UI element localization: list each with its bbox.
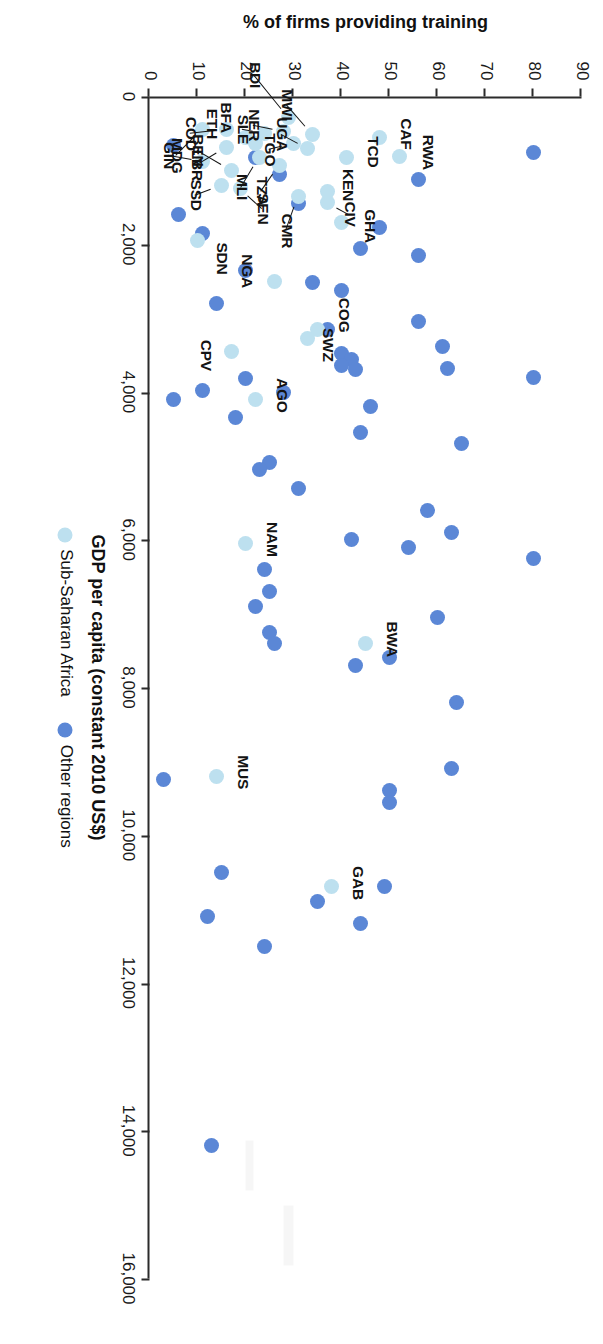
data-point [290, 189, 305, 204]
data-point [170, 207, 185, 222]
data-point [324, 879, 339, 894]
x-tick-label: 12,000 [117, 957, 137, 1009]
x-tick-mark [141, 244, 149, 246]
y-tick-label: 40 [331, 61, 351, 80]
data-point [348, 657, 363, 672]
y-tick-mark [531, 88, 533, 96]
data-point [252, 462, 267, 477]
data-point [204, 1138, 219, 1153]
data-point [194, 383, 209, 398]
data-point [430, 609, 445, 624]
data-point [238, 371, 253, 386]
country-label-ssd: SSD [186, 179, 204, 210]
x-tick-mark [141, 539, 149, 541]
data-point [199, 909, 214, 924]
data-point [218, 139, 233, 154]
country-label-sdn: SDN [212, 242, 230, 274]
data-point [401, 539, 416, 554]
data-point [353, 425, 368, 440]
y-tick-mark [483, 88, 485, 96]
country-label-ago: AGO [272, 378, 290, 413]
x-tick-label: 16,000 [117, 1252, 137, 1304]
scatter-chart-figure: 02,0004,0006,0008,00010,00012,00014,0001… [0, 0, 603, 1344]
data-point [382, 794, 397, 809]
data-point [319, 183, 334, 198]
y-tick-label: 70 [475, 61, 495, 80]
data-point [300, 331, 315, 346]
data-point [238, 535, 253, 550]
country-label-mdg: MDG [167, 137, 185, 173]
data-point [377, 879, 392, 894]
data-point [257, 938, 272, 953]
x-tick-mark [141, 1130, 149, 1132]
y-tick-mark [435, 88, 437, 96]
data-point [353, 916, 368, 931]
x-axis-title: GDP per capita (constant 2010 US$) [86, 96, 107, 1278]
legend-item: Sub-Saharan Africa [55, 527, 75, 696]
country-label-mwi: MWI [277, 89, 295, 120]
data-point [305, 275, 320, 290]
data-point [434, 338, 449, 353]
data-point [266, 273, 281, 288]
country-label-lbr: LBR [187, 149, 205, 180]
data-point [166, 391, 181, 406]
data-point [305, 127, 320, 142]
data-point [262, 583, 277, 598]
y-tick-label: 60 [427, 61, 447, 80]
data-point [257, 561, 272, 576]
y-tick-mark [147, 88, 149, 96]
data-point [420, 502, 435, 517]
data-point [439, 360, 454, 375]
rotated-page-wrapper: 02,0004,0006,0008,00010,00012,00014,0001… [0, 0, 603, 1344]
data-point [526, 369, 541, 384]
data-point [266, 635, 281, 650]
data-point [410, 247, 425, 262]
country-label-gab: GAB [348, 866, 366, 900]
data-point [228, 410, 243, 425]
x-tick-label: 2,000 [117, 222, 137, 265]
country-label-tcd: TCD [363, 136, 381, 167]
data-point [300, 140, 315, 155]
legend-marker-icon [58, 527, 73, 542]
country-label-swz: SWZ [318, 327, 336, 361]
country-label-bdi: BDI [245, 62, 263, 88]
legend-item: Other regions [55, 722, 75, 847]
y-axis-line [149, 96, 581, 98]
y-tick-label: 30 [283, 61, 303, 80]
legend-marker-icon [58, 722, 73, 737]
data-point [358, 635, 373, 650]
country-label-ken: KEN [338, 168, 356, 200]
data-point [156, 772, 171, 787]
y-tick-label: 0 [139, 71, 159, 80]
x-tick-label: 8,000 [117, 666, 137, 709]
data-point [391, 148, 406, 163]
x-tick-mark [141, 983, 149, 985]
data-point [410, 314, 425, 329]
data-point [310, 894, 325, 909]
x-tick-mark [141, 835, 149, 837]
y-tick-mark [387, 88, 389, 96]
y-tick-label: 80 [523, 61, 543, 80]
data-point [247, 598, 262, 613]
data-point [247, 391, 262, 406]
data-point [290, 480, 305, 495]
x-tick-label: 14,000 [117, 1104, 137, 1156]
country-label-mus: MUS [233, 755, 251, 789]
data-point [343, 532, 358, 547]
country-label-cmr: CMR [277, 213, 295, 248]
y-tick-mark [195, 88, 197, 96]
x-tick-mark [141, 687, 149, 689]
y-tick-label: 90 [571, 61, 591, 80]
data-point [348, 362, 363, 377]
data-point [526, 550, 541, 565]
x-tick-mark [141, 1278, 149, 1280]
legend-label: Other regions [55, 744, 75, 847]
data-point [338, 150, 353, 165]
data-point [410, 171, 425, 186]
y-tick-label: 50 [379, 61, 399, 80]
country-label-civ: CIV [340, 201, 358, 226]
country-label-cog: COG [334, 297, 352, 332]
x-tick-mark [141, 392, 149, 394]
data-point [449, 694, 464, 709]
y-tick-mark [579, 88, 581, 96]
